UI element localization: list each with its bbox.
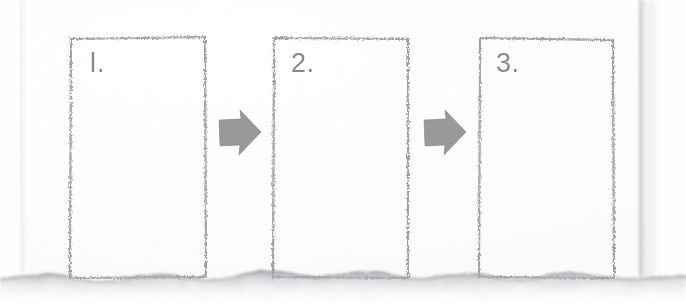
flow-arrow-2 (422, 108, 468, 158)
step-box-3[interactable]: 3. (476, 34, 616, 279)
step-number-1: l. (90, 50, 106, 77)
flow-arrow-1 (217, 108, 263, 158)
paper-right-edge (639, 0, 648, 276)
scanned-page-canvas: l. (0, 0, 686, 304)
step-box-1[interactable]: l. (68, 34, 208, 279)
arrow-right-icon (422, 108, 468, 158)
paper-torn-bottom-edge (0, 248, 686, 304)
step-box-1-border (68, 34, 208, 279)
paper-right-edge-shadow (648, 0, 662, 278)
step-number-3: 3. (496, 50, 520, 77)
arrow-right-icon (217, 108, 263, 158)
step-box-2[interactable]: 2. (271, 34, 411, 279)
paper-left-edge (20, 0, 26, 272)
step-number-2: 2. (291, 50, 315, 77)
